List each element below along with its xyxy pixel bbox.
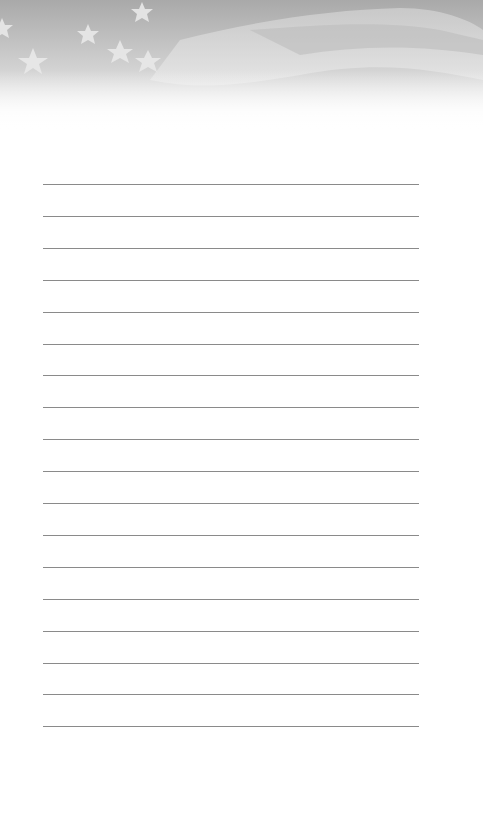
ruled-line: [43, 663, 419, 664]
ruled-line: [43, 599, 419, 600]
header-fade: [0, 70, 483, 130]
ruled-line: [43, 471, 419, 472]
flag-header-banner: [0, 0, 483, 130]
ruled-line: [43, 312, 419, 313]
ruled-line: [43, 375, 419, 376]
ruled-line: [43, 407, 419, 408]
ruled-line: [43, 503, 419, 504]
ruled-line: [43, 535, 419, 536]
ruled-line: [43, 280, 419, 281]
star-icon: [77, 24, 99, 44]
ruled-line: [43, 184, 419, 185]
star-icon: [131, 2, 153, 22]
ruled-line: [43, 216, 419, 217]
star-icon: [107, 40, 133, 63]
star-icon: [0, 18, 13, 38]
ruled-line: [43, 439, 419, 440]
ruled-line: [43, 726, 419, 727]
star-icon: [135, 50, 161, 72]
ruled-line: [43, 631, 419, 632]
ruled-line: [43, 344, 419, 345]
ruled-line: [43, 567, 419, 568]
ruled-line: [43, 694, 419, 695]
ruled-line: [43, 248, 419, 249]
